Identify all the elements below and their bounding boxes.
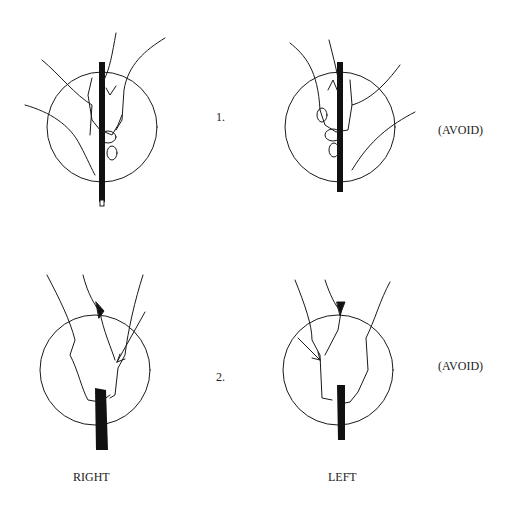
panel-2-avoid-label: (AVOID) (438, 359, 483, 373)
panel-2-number: 2. (216, 370, 225, 384)
diagram-2-left (283, 280, 393, 440)
column-label-left: LEFT (328, 470, 357, 484)
grip-diagram (0, 0, 514, 506)
column-label-right: RIGHT (73, 470, 110, 484)
panel-1-number: 1. (216, 110, 225, 124)
diagram-2-right (40, 275, 150, 450)
diagram-1-left (285, 40, 415, 192)
panel-1-avoid-label: (AVOID) (438, 123, 483, 137)
diagram-1-right (25, 33, 165, 206)
